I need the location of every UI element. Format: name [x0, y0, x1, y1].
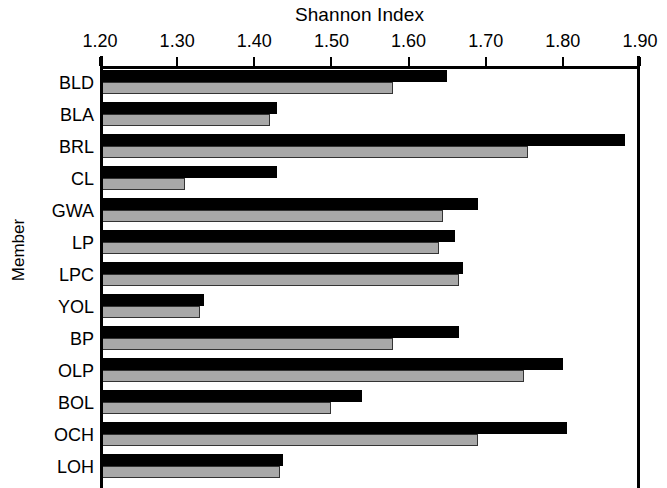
bar-black — [103, 134, 625, 146]
bar-black — [103, 262, 463, 274]
member-label: BLA — [60, 105, 94, 126]
member-label: YOL — [58, 297, 94, 318]
bar-black — [103, 294, 204, 306]
bar-gray — [103, 338, 393, 350]
bar-black — [103, 230, 455, 242]
member-label: OLP — [58, 361, 94, 382]
chart-row: LOH — [0, 453, 667, 485]
x-tick-label: 1.20 — [82, 31, 117, 52]
x-axis-tick-labels: 1.201.301.401.501.601.701.801.90 — [0, 31, 667, 53]
bar-black — [103, 454, 283, 466]
bar-gray — [103, 242, 439, 254]
bar-black — [103, 70, 447, 82]
x-tick-mark — [639, 57, 641, 66]
x-tick-mark — [408, 57, 410, 66]
bar-black — [103, 358, 563, 370]
chart-row: BRL — [0, 133, 667, 165]
member-label: LPC — [59, 265, 94, 286]
chart-row: GWA — [0, 197, 667, 229]
shannon-index-bar-chart: Shannon Index 1.201.301.401.501.601.701.… — [0, 0, 667, 488]
bar-black — [103, 422, 567, 434]
member-label: GWA — [52, 201, 94, 222]
plot-area: BLDBLABRLCLGWALPLPCYOLBPOLPBOLOCHLOH — [0, 69, 667, 488]
x-tick-mark — [330, 57, 332, 66]
bar-gray — [103, 434, 478, 446]
chart-row: YOL — [0, 293, 667, 325]
bar-gray — [103, 466, 280, 478]
bar-gray — [103, 82, 393, 94]
member-label: BP — [70, 329, 94, 350]
member-label: BRL — [59, 137, 94, 158]
bar-gray — [103, 114, 270, 126]
bar-gray — [103, 274, 459, 286]
chart-row: BP — [0, 325, 667, 357]
chart-title: Shannon Index — [0, 4, 667, 26]
x-tick-label: 1.70 — [468, 31, 503, 52]
bar-black — [103, 166, 277, 178]
member-label: LP — [72, 233, 94, 254]
x-tick-label: 1.40 — [237, 31, 272, 52]
x-tick-label: 1.90 — [622, 31, 657, 52]
x-tick-mark — [176, 57, 178, 66]
chart-row: BLD — [0, 69, 667, 101]
chart-row: BOL — [0, 389, 667, 421]
member-label: CL — [71, 169, 94, 190]
member-label: BOL — [58, 393, 94, 414]
x-tick-mark — [485, 57, 487, 66]
bar-black — [103, 390, 362, 402]
bar-black — [103, 198, 478, 210]
chart-row: BLA — [0, 101, 667, 133]
x-tick-mark — [253, 57, 255, 66]
bar-black — [103, 102, 277, 114]
chart-row: LP — [0, 229, 667, 261]
chart-row: OCH — [0, 421, 667, 453]
chart-row: CL — [0, 165, 667, 197]
chart-row: LPC — [0, 261, 667, 293]
x-tick-mark — [562, 57, 564, 66]
bar-gray — [103, 210, 443, 222]
x-tick-label: 1.60 — [391, 31, 426, 52]
x-tick-label: 1.80 — [545, 31, 580, 52]
chart-row: OLP — [0, 357, 667, 389]
bar-gray — [103, 370, 524, 382]
member-label: OCH — [54, 425, 94, 446]
bar-gray — [103, 146, 528, 158]
bar-gray — [103, 178, 185, 190]
member-label: BLD — [59, 73, 94, 94]
x-tick-label: 1.30 — [160, 31, 195, 52]
bar-gray — [103, 306, 200, 318]
member-label: LOH — [57, 457, 94, 478]
x-tick-label: 1.50 — [314, 31, 349, 52]
bar-gray — [103, 402, 331, 414]
x-tick-mark — [99, 57, 101, 66]
bar-black — [103, 326, 459, 338]
